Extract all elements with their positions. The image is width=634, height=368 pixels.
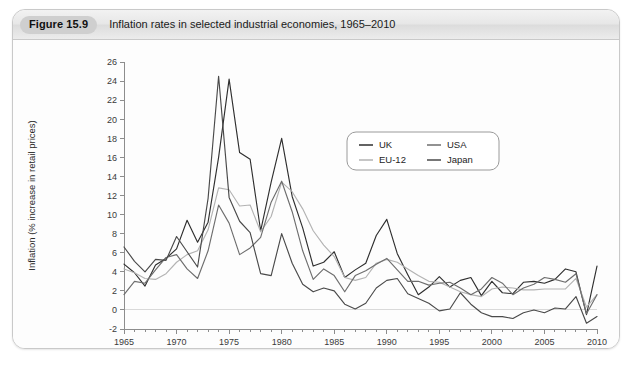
legend-label-eu-12: EU-12 — [379, 154, 406, 165]
inflation-line-chart: -202468101214161820222426 19651970197519… — [13, 40, 619, 348]
svg-text:8: 8 — [112, 229, 117, 239]
svg-text:14: 14 — [107, 172, 117, 182]
svg-text:1995: 1995 — [429, 337, 449, 347]
figure-caption-text: Inflation rates in selected industrial e… — [109, 19, 395, 30]
svg-text:26: 26 — [107, 57, 117, 67]
chart-area: -202468101214161820222426 19651970197519… — [13, 40, 619, 349]
legend-label-uk: UK — [379, 139, 393, 150]
figure-number-badge: Figure 15.9 — [20, 16, 97, 34]
series-line-eu-12 — [124, 182, 597, 307]
y-axis-tick-labels: -202468101214161820222426 — [107, 57, 117, 334]
screenshot-root: Figure 15.9 Inflation rates in selected … — [0, 0, 634, 368]
svg-text:-2: -2 — [109, 324, 117, 334]
svg-text:2010: 2010 — [587, 337, 607, 347]
svg-text:10: 10 — [107, 210, 117, 220]
svg-text:2000: 2000 — [482, 337, 502, 347]
figure-caption-bar: Figure 15.9 Inflation rates in selected … — [13, 10, 619, 40]
svg-text:1965: 1965 — [114, 337, 134, 347]
x-axis-tick-labels: 1965197019751980198519901995200020052010 — [114, 337, 607, 347]
series-line-japan — [124, 76, 597, 323]
svg-text:20: 20 — [107, 115, 117, 125]
svg-text:6: 6 — [112, 248, 117, 258]
svg-text:12: 12 — [107, 191, 117, 201]
svg-text:1985: 1985 — [324, 337, 344, 347]
svg-text:24: 24 — [107, 76, 117, 86]
x-axis-ticks — [124, 329, 597, 334]
svg-text:2005: 2005 — [534, 337, 554, 347]
legend-box — [347, 132, 499, 170]
svg-text:16: 16 — [107, 153, 117, 163]
svg-text:0: 0 — [112, 305, 117, 315]
figure-card: Figure 15.9 Inflation rates in selected … — [12, 9, 620, 349]
legend-label-japan: Japan — [447, 154, 473, 165]
svg-text:1975: 1975 — [219, 337, 239, 347]
svg-text:1990: 1990 — [377, 337, 397, 347]
svg-text:1980: 1980 — [272, 337, 292, 347]
chart-legend[interactable]: UKUSAEU-12Japan — [347, 132, 499, 170]
svg-text:2: 2 — [112, 286, 117, 296]
svg-text:22: 22 — [107, 95, 117, 105]
chart-series-group — [124, 76, 597, 323]
legend-label-usa: USA — [447, 139, 467, 150]
svg-text:1970: 1970 — [167, 337, 187, 347]
series-line-usa — [124, 181, 597, 314]
svg-text:4: 4 — [112, 267, 117, 277]
y-axis-title: Inflation (% increase in retail prices) — [26, 120, 37, 270]
svg-text:18: 18 — [107, 134, 117, 144]
y-axis-ticks — [120, 62, 124, 329]
